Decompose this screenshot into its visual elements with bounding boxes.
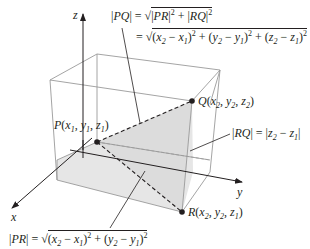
x-axis-label: x [11,211,16,223]
formula-pr: |PR| = √(x2 − x1)2 + (y2 − y1)2 [9,230,147,248]
formula-pq-line1: |PQ| = √|PR|2 + |RQ|2 [111,7,212,22]
point-p-label: P(x1, y1, z1) [54,119,109,134]
leader-rq [190,134,230,151]
y-axis-label: y [237,186,242,198]
point-p [94,139,100,145]
z-axis-label: z [73,9,78,21]
point-q [189,98,195,104]
point-r-label: R(x2, y2, z1) [188,206,243,221]
formula-rq: |RQ| = |z2 − z1| [232,127,301,142]
point-q-label: Q(x2, y2, z2) [198,95,254,110]
point-r [179,209,185,215]
formula-pq-line2: = √(x2 − x1)2 + (y2 − y1)2 + (z2 − z1)2 [136,28,307,46]
